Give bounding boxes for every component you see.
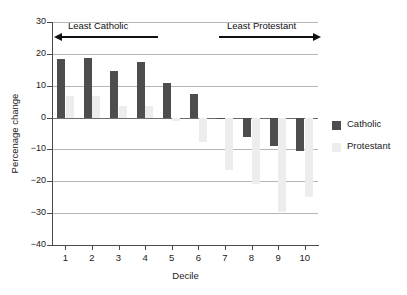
x-tick xyxy=(119,246,120,250)
bar-catholic-decile-6 xyxy=(190,94,198,118)
y-tick-label: −40 xyxy=(18,240,46,249)
y-tick xyxy=(47,245,52,246)
chart-figure: 3020100−10−20−30−40 12345678910 Decile P… xyxy=(0,0,407,295)
legend-label-catholic: Catholic xyxy=(347,118,381,129)
bar-protestant-decile-10 xyxy=(305,118,313,198)
y-tick-label: −10 xyxy=(18,144,46,153)
x-tick-label: 5 xyxy=(157,252,187,263)
bar-protestant-decile-1 xyxy=(66,96,74,118)
bar-catholic-decile-4 xyxy=(137,62,145,118)
y-tick-label: 0 xyxy=(18,113,46,122)
y-tick xyxy=(47,22,52,23)
annotation-least-catholic-arrow-line xyxy=(61,36,158,38)
x-tick-label: 10 xyxy=(290,252,320,263)
x-axis-title: Decile xyxy=(52,270,319,281)
legend-label-protestant: Protestant xyxy=(347,140,390,151)
bar-catholic-decile-8 xyxy=(243,118,251,137)
gridline xyxy=(52,54,318,55)
x-tick-label: 8 xyxy=(237,252,267,263)
bar-protestant-decile-6 xyxy=(199,118,207,143)
y-tick xyxy=(47,118,52,119)
x-tick xyxy=(278,246,279,250)
x-tick xyxy=(65,246,66,250)
y-tick-label: 10 xyxy=(18,81,46,90)
bar-protestant-decile-9 xyxy=(278,118,286,212)
x-tick xyxy=(145,246,146,250)
bar-protestant-decile-8 xyxy=(252,118,260,185)
x-tick-label: 2 xyxy=(77,252,107,263)
bar-catholic-decile-10 xyxy=(296,118,304,151)
bar-protestant-decile-3 xyxy=(119,106,127,117)
x-tick-label: 4 xyxy=(130,252,160,263)
y-tick xyxy=(47,181,52,182)
y-tick-label: 30 xyxy=(18,17,46,26)
y-tick xyxy=(47,54,52,55)
y-tick xyxy=(47,213,52,214)
x-tick xyxy=(225,246,226,250)
y-axis-line xyxy=(52,22,53,246)
x-tick xyxy=(198,246,199,250)
legend-swatch-protestant xyxy=(332,143,341,152)
y-tick xyxy=(47,86,52,87)
x-tick xyxy=(172,246,173,250)
x-tick-label: 1 xyxy=(50,252,80,263)
legend-swatch-catholic xyxy=(332,121,341,130)
y-tick-label: 20 xyxy=(18,49,46,58)
x-tick xyxy=(305,246,306,250)
annotation-least-protestant-label: Least Protestant xyxy=(227,20,296,31)
y-tick xyxy=(47,149,52,150)
x-tick xyxy=(252,246,253,250)
bar-catholic-decile-1 xyxy=(57,59,65,118)
x-tick-label: 9 xyxy=(263,252,293,263)
gridline xyxy=(52,86,318,87)
annotation-least-protestant-arrow-line xyxy=(219,36,315,38)
bar-protestant-decile-2 xyxy=(92,96,100,118)
x-tick-label: 3 xyxy=(104,252,134,263)
x-tick-label: 6 xyxy=(183,252,213,263)
bar-catholic-decile-7 xyxy=(217,118,225,119)
x-tick xyxy=(92,246,93,250)
annotation-least-catholic-label: Least Catholic xyxy=(68,20,128,31)
bar-catholic-decile-2 xyxy=(84,58,92,118)
bar-catholic-decile-5 xyxy=(163,83,171,118)
gridline xyxy=(52,213,318,214)
plot-area xyxy=(52,22,318,245)
x-tick-label: 7 xyxy=(210,252,240,263)
y-tick-label: −20 xyxy=(18,176,46,185)
arrow-right-icon xyxy=(313,33,321,41)
y-tick-label: −30 xyxy=(18,208,46,217)
bar-catholic-decile-3 xyxy=(110,71,118,117)
bar-protestant-decile-7 xyxy=(225,118,233,171)
bar-catholic-decile-9 xyxy=(270,118,278,146)
bar-protestant-decile-4 xyxy=(145,106,153,117)
bar-protestant-decile-5 xyxy=(172,118,180,122)
y-axis-title: Percenage change xyxy=(9,84,20,184)
